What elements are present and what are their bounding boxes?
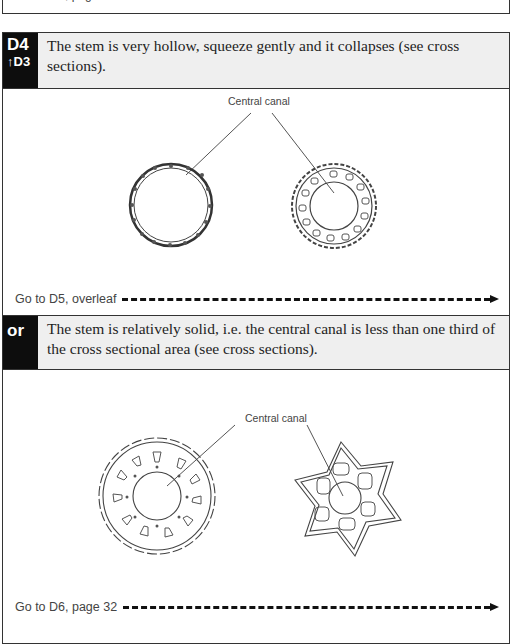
dashed-leader-line	[122, 298, 490, 301]
alternative-header: or The stem is relatively solid, i.e. th…	[3, 315, 509, 370]
couplet-d4-card: D4 ↑D3 The stem is very hollow, squeeze …	[2, 32, 510, 644]
alternative-key: or	[7, 318, 38, 340]
goto-d6-text[interactable]: Go to D6, page 32	[15, 600, 117, 614]
dashed-leader-line	[123, 606, 490, 609]
goto-d5-text[interactable]: Go to D5, overleaf	[15, 292, 116, 306]
arrow-right-icon	[490, 603, 499, 611]
alternative-lead-text: The stem is relatively solid, i.e. the c…	[38, 316, 509, 369]
back-reference-link[interactable]: ↑D3	[7, 54, 38, 70]
hollow-stem-figure: Central canal	[3, 89, 509, 289]
solid-stem-diagram	[3, 370, 508, 600]
arrow-right-icon	[490, 295, 499, 303]
goto-d6-link[interactable]: Go to D6, page 32	[15, 599, 499, 615]
couplet-lead-text: The stem is very hollow, squeeze gently …	[38, 33, 509, 88]
previous-goto-text[interactable]: Go to D7, page 33	[17, 0, 115, 2]
couplet-header: D4 ↑D3 The stem is very hollow, squeeze …	[3, 33, 509, 89]
previous-couplet-box: Go to D7, page 33	[2, 0, 510, 14]
goto-d5-link[interactable]: Go to D5, overleaf	[15, 291, 499, 307]
alternative-key-label: or	[3, 316, 38, 369]
hollow-stem-diagram	[3, 89, 508, 289]
couplet-key-label: D4 ↑D3	[3, 33, 38, 88]
couplet-key: D4	[7, 35, 38, 54]
solid-stem-figure: Central canal	[3, 370, 509, 600]
